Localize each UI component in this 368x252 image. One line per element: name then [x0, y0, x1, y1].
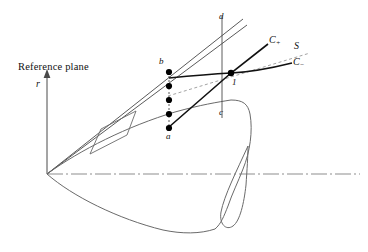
chain-dot-4 — [166, 111, 172, 117]
c-minus-base: C — [293, 56, 300, 67]
characteristic-c-plus-label: C+ — [269, 35, 280, 47]
r-axis-label: r — [36, 79, 40, 89]
c-minus-subscript: − — [300, 61, 304, 69]
streamline-s-dashed — [168, 53, 310, 96]
characteristic-c-minus-label: C− — [293, 57, 304, 69]
chain-dot-3 — [166, 97, 172, 103]
r-axis-group — [44, 69, 51, 174]
shock-layer-rib-top — [101, 111, 136, 129]
figure-root: Reference plane r b a c d 1 C+ S C− — [0, 0, 368, 252]
body-surface-curve — [47, 100, 231, 174]
shock-line-lower — [47, 25, 247, 174]
point-a-label: a — [166, 132, 171, 141]
point-b-label: b — [159, 57, 164, 66]
body-base-contour — [215, 100, 251, 229]
point-d-label: d — [219, 12, 224, 21]
point-c-label: c — [219, 108, 223, 117]
streamline-s-label: S — [294, 41, 299, 51]
body-lower-generator — [47, 174, 215, 233]
reference-plane-label: Reference plane — [18, 62, 89, 73]
shock-double-line — [47, 19, 247, 174]
chain-dot-b — [166, 69, 172, 75]
shock-line-upper — [47, 19, 243, 174]
shock-layer-rib-1 — [90, 129, 101, 154]
diagram-canvas — [0, 0, 368, 252]
point-one-label: 1 — [232, 78, 237, 87]
c-plus-base: C — [269, 34, 276, 45]
chain-dot-2 — [166, 83, 172, 89]
c-plus-subscript: + — [276, 39, 280, 47]
base-teardrop-loop — [221, 146, 248, 228]
intersection-point-marker — [228, 70, 234, 76]
